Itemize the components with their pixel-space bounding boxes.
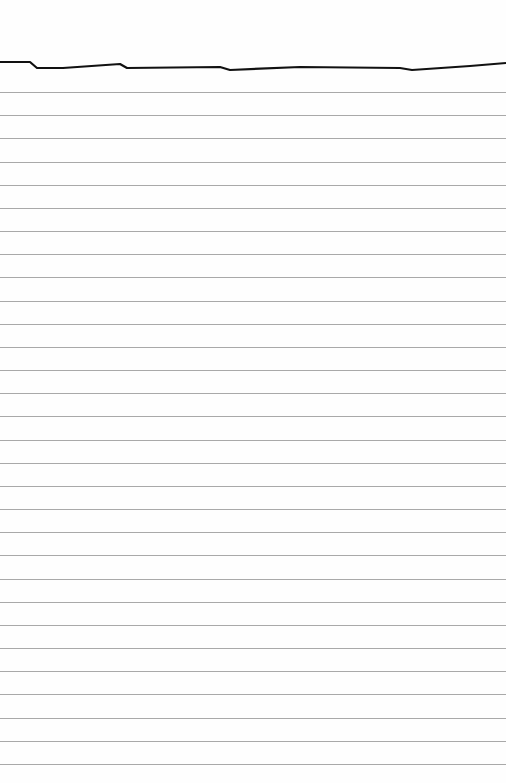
ruled-line bbox=[0, 648, 506, 649]
header-line bbox=[0, 0, 506, 100]
ruled-line bbox=[0, 509, 506, 510]
ruled-line bbox=[0, 115, 506, 116]
ruled-line bbox=[0, 764, 506, 765]
ruled-line bbox=[0, 277, 506, 278]
ruled-line bbox=[0, 602, 506, 603]
ruled-line bbox=[0, 579, 506, 580]
ruled-line bbox=[0, 254, 506, 255]
ruled-line bbox=[0, 625, 506, 626]
ruled-line bbox=[0, 416, 506, 417]
ruled-line bbox=[0, 440, 506, 441]
lined-paper bbox=[0, 0, 506, 783]
ruled-line bbox=[0, 231, 506, 232]
ruled-line bbox=[0, 463, 506, 464]
ruled-line bbox=[0, 185, 506, 186]
ruled-line bbox=[0, 741, 506, 742]
ruled-line bbox=[0, 393, 506, 394]
ruled-line bbox=[0, 162, 506, 163]
ruled-line bbox=[0, 347, 506, 348]
ruled-line bbox=[0, 92, 506, 93]
ruled-line bbox=[0, 671, 506, 672]
ruled-line bbox=[0, 555, 506, 556]
ruled-line bbox=[0, 301, 506, 302]
ruled-line bbox=[0, 694, 506, 695]
ruled-line bbox=[0, 486, 506, 487]
ruled-line bbox=[0, 370, 506, 371]
ruled-line bbox=[0, 208, 506, 209]
ruled-line bbox=[0, 138, 506, 139]
ruled-line bbox=[0, 324, 506, 325]
ruled-line bbox=[0, 532, 506, 533]
ruled-line bbox=[0, 718, 506, 719]
